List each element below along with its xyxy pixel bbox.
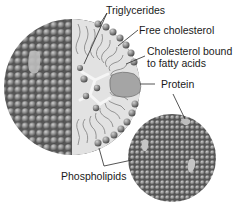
label-cholesterol-bound-line1: Cholesterol bound bbox=[147, 45, 232, 57]
phospholipids-leader bbox=[99, 148, 132, 166]
label-phospholipids: Phospholipids bbox=[61, 170, 126, 182]
surface-protein-patch bbox=[28, 50, 40, 73]
label-triglycerides: Triglycerides bbox=[106, 4, 165, 16]
large-lipoprotein bbox=[0, 15, 150, 165]
protein-patch bbox=[110, 72, 141, 97]
label-free-cholesterol: Free cholesterol bbox=[139, 24, 214, 36]
small-lipoprotein bbox=[125, 110, 220, 205]
label-cholesterol-bound-line2: to fatty acids bbox=[147, 57, 206, 69]
label-protein: Protein bbox=[161, 78, 194, 90]
